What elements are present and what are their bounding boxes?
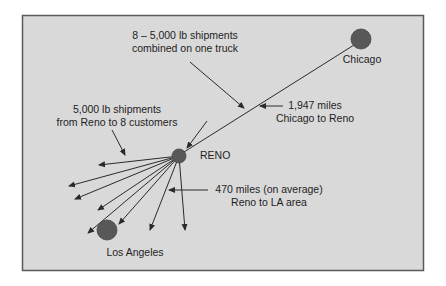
chicago-reno-annotation: 1,947 miles Chicago to Reno: [270, 99, 360, 125]
los-angeles-node-icon: [97, 220, 117, 240]
reno-customers-annotation: 5,000 lb shipments from Reno to 8 custom…: [52, 103, 182, 129]
los-angeles-label: Los Angeles: [100, 246, 170, 259]
combined-shipments-annotation: 8 – 5,000 lb shipments combined on one t…: [105, 29, 265, 55]
chicago-reno-line-1: 1,947 miles: [270, 99, 360, 112]
chicago-label: Chicago: [335, 53, 389, 66]
reno-label: RENO: [200, 149, 240, 162]
chicago-reno-line-2: Chicago to Reno: [270, 112, 360, 125]
reno-node-icon: [172, 149, 186, 163]
reno-la-annotation: 470 miles (on average) Reno to LA area: [208, 183, 330, 209]
combined-line-2: combined on one truck: [105, 42, 265, 55]
los-angeles-label-text: Los Angeles: [100, 246, 170, 259]
reno-customers-line-1: 5,000 lb shipments: [52, 103, 182, 116]
reno-la-line-2: Reno to LA area: [208, 196, 330, 209]
reno-label-text: RENO: [200, 149, 240, 162]
reno-customers-line-2: from Reno to 8 customers: [52, 116, 182, 129]
chicago-label-text: Chicago: [335, 53, 389, 66]
chicago-node-icon: [351, 29, 371, 49]
combined-line-1: 8 – 5,000 lb shipments: [105, 29, 265, 42]
reno-la-line-1: 470 miles (on average): [208, 183, 330, 196]
